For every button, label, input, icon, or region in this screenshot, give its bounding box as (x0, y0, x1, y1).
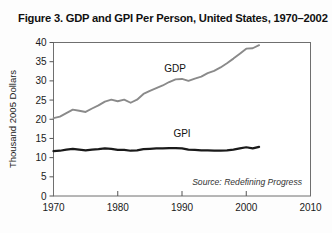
gpi-series-label: GPI (173, 128, 190, 139)
y-axis-tick-label: 40 (35, 37, 47, 48)
y-axis: 0510152025303540 (35, 37, 53, 202)
y-axis-tick-label: 30 (35, 75, 47, 86)
source-attribution: Source: Redefining Progress (192, 177, 303, 187)
y-axis-tick-label: 5 (41, 171, 47, 182)
gdp-series-label: GDP (164, 63, 186, 74)
y-axis-tick-label: 20 (35, 114, 47, 125)
y-axis-tick-label: 0 (41, 191, 47, 202)
x-axis-tick-label: 2010 (299, 202, 322, 213)
x-axis-tick-label: 1970 (42, 202, 65, 213)
chart-plot-area: 0510152025303540 19701980199020002010 Th… (0, 0, 332, 233)
x-axis-tick-label: 2000 (235, 202, 258, 213)
y-axis-tick-label: 25 (35, 95, 47, 106)
x-axis-tick-label: 1980 (107, 202, 130, 213)
y-axis-tick-label: 10 (35, 152, 47, 163)
figure-container: Figure 3. GDP and GPI Per Person, United… (0, 0, 332, 233)
y-axis-tick-label: 15 (35, 133, 47, 144)
y-axis-title: Thousand 2005 Dollars (7, 70, 18, 168)
y-axis-tick-label: 35 (35, 56, 47, 67)
x-axis-tick-label: 1990 (171, 202, 194, 213)
